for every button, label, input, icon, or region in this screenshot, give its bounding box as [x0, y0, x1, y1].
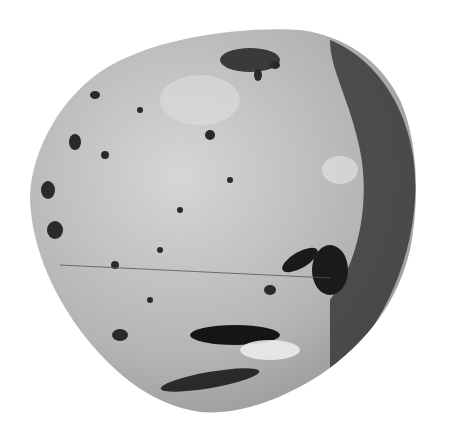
moon-photo [0, 0, 451, 437]
moon-body [0, 0, 451, 437]
